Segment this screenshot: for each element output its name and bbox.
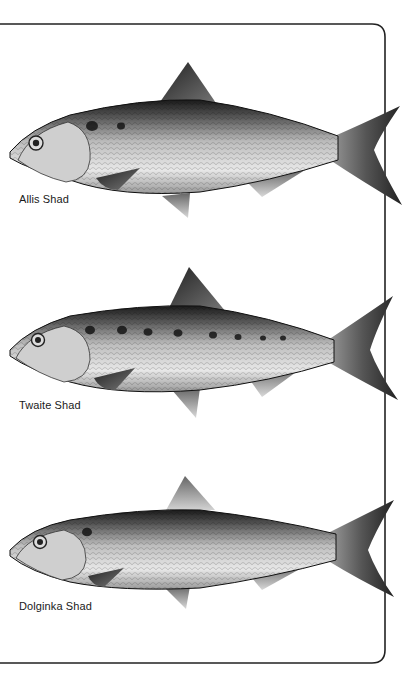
spot-marking (82, 528, 92, 537)
fish-label-dolginka-shad: Dolginka Shad (19, 600, 92, 613)
lateral-spots (82, 528, 92, 537)
fish-illustration-dolginka-shad (0, 0, 412, 630)
dorsal-fin (165, 476, 215, 512)
tail-fin (330, 500, 394, 597)
fish-label-allis-shad: Allis Shad (19, 193, 69, 206)
fish-label-twaite-shad: Twaite Shad (19, 399, 81, 412)
illustration-plate: Allis Shad Twaite Shad Dolginka Shad (0, 0, 412, 676)
